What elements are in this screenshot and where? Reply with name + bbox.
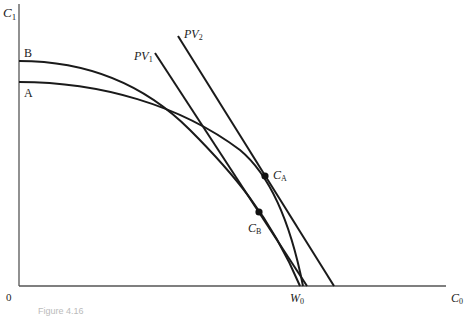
curve-b	[19, 61, 300, 286]
x-axis-label: C0	[451, 291, 463, 306]
curve-b-label: B	[24, 46, 32, 60]
production-opportunity-diagram: C1 B A PV1 PV2 CA CB 0 W0 C0	[0, 0, 467, 321]
point-ca	[261, 172, 268, 179]
pv1-label: PV1	[133, 49, 153, 64]
point-cb-label: CB	[248, 221, 261, 236]
pv1-line	[155, 53, 307, 286]
pv2-label: PV2	[183, 27, 203, 42]
origin-label: 0	[6, 291, 12, 303]
curve-a-label: A	[24, 86, 33, 100]
y-axis-label: C1	[3, 5, 16, 22]
pv2-line	[178, 36, 334, 286]
figure-caption: Figure 4.16	[38, 306, 84, 316]
curve-a	[19, 82, 303, 286]
w0-label: W0	[290, 291, 304, 306]
point-ca-label: CA	[273, 168, 287, 183]
point-cb	[255, 208, 262, 215]
